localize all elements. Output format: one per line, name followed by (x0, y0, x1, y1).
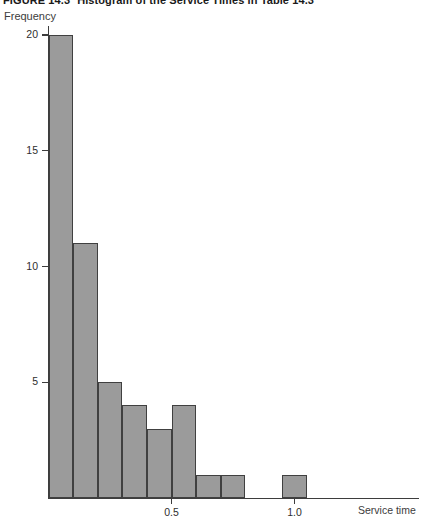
y-axis-tick-label: 15 (2, 144, 38, 156)
y-axis-tick-label: 20 (2, 28, 38, 40)
histogram-bar (73, 243, 98, 498)
histogram-bar (282, 475, 307, 498)
x-axis-title: Service time (358, 504, 416, 516)
histogram-bar (172, 405, 197, 498)
x-axis-tick (171, 498, 172, 504)
histogram-chart: Frequency Service time 5101520 0.51.0 (0, 0, 423, 528)
y-axis-tick-label: 5 (2, 375, 38, 387)
y-axis-tick-label: 10 (2, 260, 38, 272)
histogram-bar (147, 429, 172, 498)
histogram-bar (221, 475, 246, 498)
histogram-bar (98, 382, 123, 498)
x-axis-tick-label: 1.0 (275, 506, 315, 518)
y-axis-title: Frequency (4, 10, 56, 22)
histogram-bar (122, 405, 147, 498)
histogram-bar (49, 35, 74, 498)
histogram-bar (196, 475, 221, 498)
x-axis-line (48, 498, 419, 499)
x-axis-tick (294, 498, 295, 504)
x-axis-tick-label: 0.5 (152, 506, 192, 518)
